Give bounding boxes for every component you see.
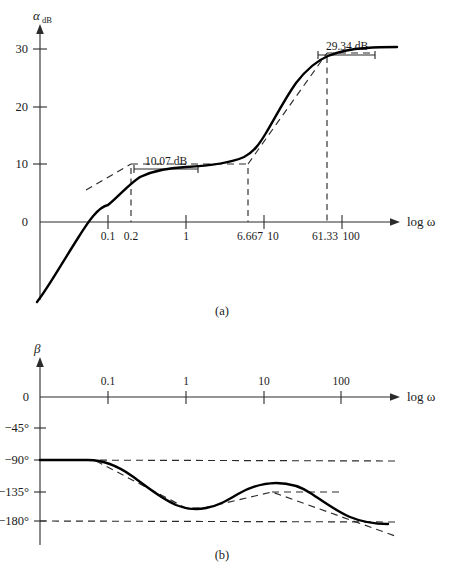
panel-a-xtick-0_2: 0.2 [124, 230, 139, 242]
panel-b-y-axis-title: β [33, 341, 41, 356]
panel-a-x-axis-title: log ω [407, 214, 436, 229]
panel-b-ytick-180: −180° [0, 514, 29, 528]
panel-a-ytick-0: 0 [22, 215, 28, 229]
panel-a-asymptote-low [86, 164, 131, 190]
y-axis-arrow-b [36, 357, 44, 367]
panel-a-ytick-20: 20 [16, 100, 29, 114]
panel-a-annotation-10_07-label: 10.07 dB [145, 155, 188, 167]
panel-b-caption: (b) [215, 548, 230, 562]
panel-b-xtick-10: 10 [258, 375, 270, 387]
panel-b-ytick-135: −135° [0, 485, 29, 499]
panel-a-xtick-0_1: 0.1 [101, 230, 116, 242]
panel-b-ytick-45: −45° [4, 421, 29, 435]
panel-a-caption: (a) [215, 304, 229, 318]
panel-b-xtick-1: 1 [183, 375, 189, 387]
figure-svg: 30 20 10 0 α dB 0.1 0.2 [0, 0, 450, 574]
panel-a-ytick-10: 10 [16, 157, 29, 171]
panel-a-xtick-100: 100 [342, 230, 360, 242]
panel-b-x-axis-title: log ω [407, 389, 436, 404]
panel-a-x-axis [40, 218, 400, 226]
x-axis-arrow-a [390, 218, 400, 226]
panel-a-magnitude: 30 20 10 0 α dB 0.1 0.2 [16, 8, 436, 302]
panel-b-y-axis [36, 357, 44, 545]
panel-a-magnitude-curve [37, 47, 397, 302]
panel-b-ytick-90: −90° [4, 453, 29, 467]
panel-a-xtick-10: 10 [267, 230, 279, 242]
panel-a-xtick-61_33: 61.33 [312, 230, 338, 242]
panel-b-phase: β 0 −45° −90° −135° −180° [0, 341, 436, 545]
panel-a-y-axis-title-main: α [33, 8, 41, 23]
panel-a-ytick-30: 30 [16, 42, 29, 56]
panel-a-y-axis [36, 24, 44, 300]
y-axis-arrow-a [36, 24, 44, 34]
panel-b-xtick-0_1: 0.1 [101, 375, 116, 387]
panel-b-xtick-100: 100 [332, 375, 350, 387]
panel-a-asymptote-mid [248, 53, 327, 164]
panel-a-y-axis-title-sub: dB [42, 15, 52, 25]
panel-a-xtick-6_667: 6.667 [237, 230, 263, 242]
x-axis-arrow-b [390, 393, 400, 401]
panel-b-x-axis [40, 393, 400, 401]
panel-a-xtick-1: 1 [183, 230, 189, 242]
panel-b-asymptote-neg180 [40, 521, 398, 522]
panel-a-y-axis-title: α dB [33, 8, 52, 25]
panel-b-phase-approximation [96, 461, 398, 537]
bode-plot-figure: 30 20 10 0 α dB 0.1 0.2 [0, 0, 450, 574]
panel-b-ytick-0: 0 [23, 390, 29, 404]
